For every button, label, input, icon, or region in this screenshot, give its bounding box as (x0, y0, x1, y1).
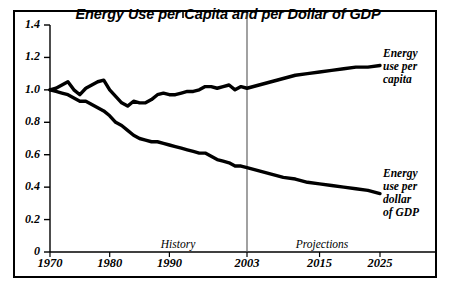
x-axis-label: 1990 (139, 256, 199, 271)
x-axis-label: 2003 (217, 256, 277, 271)
series-label-line: capita (383, 73, 418, 86)
y-axis-label: 0.2 (6, 212, 40, 227)
annotation-projections: Projections (272, 238, 372, 250)
y-axis-label: 1.0 (6, 82, 40, 97)
series-label-line: use per (383, 60, 418, 73)
x-axis-label: 1980 (80, 256, 140, 271)
y-axis-label: 0.4 (6, 179, 40, 194)
series-label-line: of GDP (383, 206, 419, 219)
y-axis-label: 1.4 (6, 17, 40, 32)
x-axis-label: 2015 (290, 256, 350, 271)
series-label-line: Energy (383, 167, 419, 180)
x-axis-label: 1970 (20, 256, 80, 271)
chart-title: Energy Use per Capita and per Dollar of … (48, 6, 408, 22)
x-axis-label: 2025 (350, 256, 410, 271)
annotation-history: History (128, 238, 228, 250)
series-label-line: dollar (383, 193, 419, 206)
y-axis-label: 0.6 (6, 147, 40, 162)
y-axis-label: 0.8 (6, 114, 40, 129)
y-axis-label: 1.2 (6, 49, 40, 64)
series-label-energy-per-capita: Energy use per capita (383, 47, 418, 86)
series-label-energy-per-dollar-gdp: Energy use per dollar of GDP (383, 167, 419, 219)
series-label-line: Energy (383, 47, 418, 60)
series-label-line: use per (383, 180, 419, 193)
